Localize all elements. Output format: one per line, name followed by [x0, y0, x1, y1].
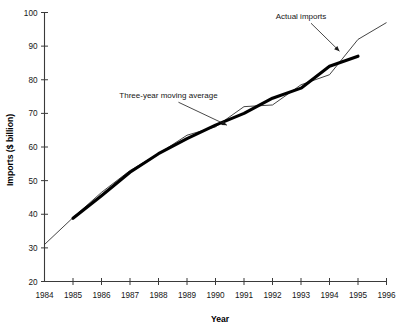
chart-series: [45, 23, 387, 245]
x-tick-label: 1993: [292, 291, 311, 300]
y-tick-label: 100: [24, 9, 38, 18]
chart-axes: [45, 13, 387, 282]
x-tick-label: 1986: [92, 291, 111, 300]
series-line-actual-imports: [45, 23, 387, 245]
annotation-moving-average: Three-year moving average: [119, 91, 218, 100]
y-axis-title: Imports ($ billion): [5, 114, 15, 186]
x-tick-label: 1991: [235, 291, 254, 300]
annotation-actual-imports: Actual imports: [276, 12, 327, 21]
chart-ticks: [41, 13, 387, 286]
y-tick-label: 60: [28, 143, 38, 152]
chart-tick-labels: 2030405060708090100198419851986198719881…: [24, 9, 396, 300]
y-tick-label: 20: [28, 278, 38, 287]
chart-annotations: Actual importsThree-year moving average: [119, 12, 339, 125]
leader-line-actual-imports: [311, 23, 339, 51]
y-tick-label: 90: [28, 42, 38, 51]
y-tick-label: 80: [28, 76, 38, 85]
x-tick-label: 1995: [349, 291, 368, 300]
x-tick-label: 1992: [263, 291, 282, 300]
chart-container: 2030405060708090100198419851986198719881…: [0, 0, 399, 330]
line-chart: 2030405060708090100198419851986198719881…: [0, 0, 399, 330]
x-tick-label: 1996: [377, 291, 396, 300]
x-tick-label: 1989: [178, 291, 197, 300]
leader-line-moving-average: [178, 102, 226, 125]
y-tick-label: 30: [28, 244, 38, 253]
y-tick-label: 50: [28, 177, 38, 186]
x-tick-label: 1994: [320, 291, 339, 300]
y-tick-label: 70: [28, 109, 38, 118]
y-tick-label: 40: [28, 210, 38, 219]
x-tick-label: 1987: [121, 291, 140, 300]
x-tick-label: 1988: [149, 291, 168, 300]
series-line-moving-average: [73, 56, 358, 218]
axis-lines: [45, 13, 387, 282]
x-tick-label: 1985: [64, 291, 83, 300]
x-axis-title: Year: [211, 314, 230, 324]
x-tick-label: 1984: [35, 291, 54, 300]
x-tick-label: 1990: [206, 291, 225, 300]
